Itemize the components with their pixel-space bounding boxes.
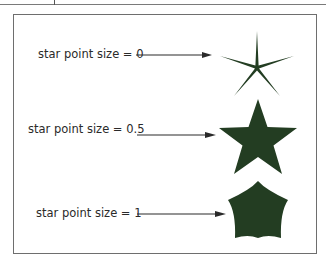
arrow-row-1 [137, 132, 216, 138]
star-icon-point-size-0-5 [219, 99, 297, 174]
star-icon-point-size-0 [220, 31, 294, 96]
star-icon-point-size-1 [228, 181, 288, 238]
arrow-row-2 [137, 211, 226, 217]
arrow-row-0 [136, 52, 212, 58]
diagram-graphics [0, 0, 326, 263]
